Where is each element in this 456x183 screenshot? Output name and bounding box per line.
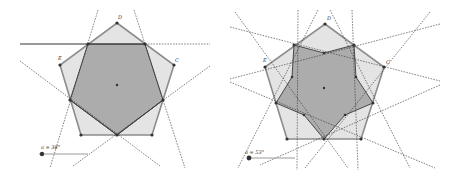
intersection-point[interactable]	[68, 98, 71, 101]
intersection-point[interactable]	[303, 114, 306, 117]
vertex-point[interactable]	[263, 65, 266, 68]
intersection-point[interactable]	[353, 44, 356, 47]
right-panel: D E C a = 53°	[230, 10, 440, 170]
angle-slider-label: a = 53°	[245, 149, 265, 155]
intersection-point[interactable]	[293, 44, 296, 47]
intersection-point[interactable]	[161, 98, 164, 101]
vertex-label-e: E	[262, 57, 267, 63]
vertex-point[interactable]	[172, 63, 175, 66]
geometry-canvas: D E C a = 38°	[0, 0, 456, 183]
vertex-label-c: C	[386, 59, 390, 65]
left-panel: D E C a = 38°	[20, 10, 210, 168]
center-point	[323, 87, 325, 89]
vertex-point[interactable]	[359, 137, 362, 140]
intersection-point[interactable]	[355, 76, 358, 79]
angle-slider-handle[interactable]	[247, 156, 252, 161]
vertex-point[interactable]	[150, 133, 153, 136]
intersection-point[interactable]	[275, 102, 278, 105]
intersection-point[interactable]	[291, 76, 294, 79]
intersection-point[interactable]	[372, 102, 375, 105]
intersection-point[interactable]	[323, 138, 326, 141]
intersection-point[interactable]	[86, 42, 89, 45]
angle-slider-label: a = 38°	[41, 144, 61, 150]
vertex-label-e: E	[57, 55, 62, 61]
intersection-point[interactable]	[143, 42, 146, 45]
vertex-point[interactable]	[58, 63, 61, 66]
vertex-label-c: C	[175, 57, 179, 63]
vertex-point[interactable]	[323, 22, 326, 25]
vertex-point[interactable]	[285, 137, 288, 140]
vertex-label-d: D	[117, 14, 122, 20]
vertex-point[interactable]	[79, 133, 82, 136]
vertex-label-d: D	[326, 15, 331, 21]
intersection-point[interactable]	[323, 52, 326, 55]
intersection-point[interactable]	[344, 114, 347, 117]
vertex-point[interactable]	[382, 65, 385, 68]
angle-slider-handle[interactable]	[40, 152, 44, 156]
intersection-point[interactable]	[115, 133, 118, 136]
vertex-point[interactable]	[115, 21, 118, 24]
center-point	[116, 84, 118, 86]
